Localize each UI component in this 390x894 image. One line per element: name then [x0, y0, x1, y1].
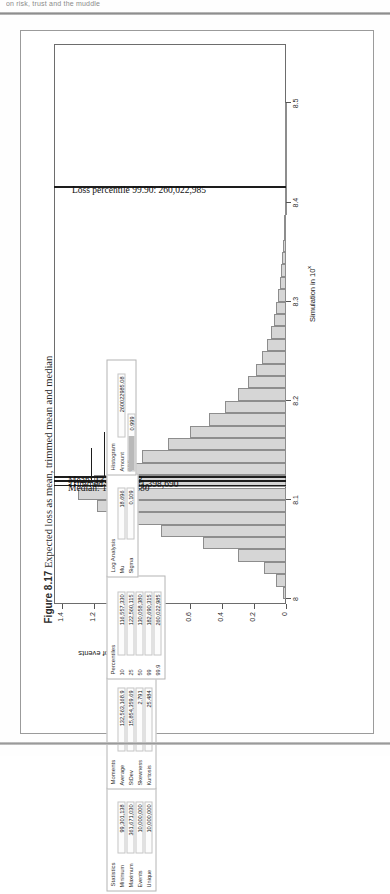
stat-label: 50 — [137, 656, 143, 676]
panel-title: Log Analysis — [110, 478, 116, 573]
stat-value: 10,000,000 — [136, 802, 144, 854]
stat-label: 99.9 — [155, 656, 161, 676]
stat-value: 0.109 — [127, 488, 135, 540]
panel-moments: Moments Average 132,563,168.9 StDev 15,8… — [107, 678, 157, 790]
running-head: on risk, trust and the muddle — [6, 0, 206, 9]
stat-row: Kurtosis 25.484 — [145, 682, 153, 786]
leader-line — [91, 448, 92, 482]
stat-label: Skewness — [137, 752, 143, 786]
histogram-bar — [285, 153, 287, 165]
x-axis-tick-label: 8.1 — [292, 488, 299, 512]
histogram-bar — [285, 141, 287, 153]
panel-statistics: Statistics Minimum 99,301,138 Maximum 36… — [107, 788, 157, 892]
stat-row: 99 182,690,315 — [145, 580, 153, 676]
y-axis-tick — [94, 604, 95, 609]
stat-label: Mu — [119, 540, 125, 574]
histogram-bar — [276, 574, 286, 586]
x-axis-tick-label: 8.2 — [292, 389, 299, 413]
y-axis-tick — [286, 604, 287, 609]
stat-row: 25 122,560,115 — [127, 580, 135, 676]
stat-label: Events — [137, 854, 143, 888]
stat-value: 130,058,380 — [136, 592, 144, 656]
panel-title: Moments — [110, 682, 116, 785]
stat-value: 182,690,315 — [145, 592, 153, 656]
x-axis-tick-label: 8.3 — [292, 290, 299, 314]
x-axis-tick-label: 8 — [292, 587, 299, 611]
stat-label: Unique — [146, 854, 152, 888]
histogram-bar — [280, 277, 286, 289]
stat-value: 260,022,985 — [154, 592, 162, 656]
stat-label: 25 — [128, 656, 134, 676]
histogram-bar — [267, 339, 286, 351]
y-axis-tick — [62, 604, 63, 609]
histogram-bar — [282, 252, 286, 264]
stat-row: Minimum 99,301,138 — [118, 792, 126, 888]
histogram-bar — [285, 103, 287, 115]
stat-label: StDev — [128, 752, 134, 786]
x-axis-tick — [286, 202, 291, 203]
histogram-bar — [264, 562, 286, 574]
panel-percentiles: Percentiles 10 116,557,330 25 122,560,11… — [107, 576, 166, 680]
histogram-bar — [285, 203, 287, 215]
histogram-bar — [248, 376, 286, 388]
stat-label: 10 — [119, 656, 125, 676]
stat-value: 116,557,330 — [118, 592, 126, 656]
stat-label: Average — [119, 752, 125, 786]
x-axis-tick-label: 8.5 — [292, 91, 299, 115]
stat-label: 99 — [146, 656, 152, 676]
stat-row: Average 132,563,168.9 — [118, 682, 126, 786]
stat-value: 0.999 — [128, 414, 136, 472]
y-axis-tick-label: 1.4 — [57, 612, 64, 638]
stat-row: Mu 18.696 — [118, 478, 126, 574]
histogram-bar — [278, 289, 286, 301]
histogram-bar — [285, 165, 287, 177]
stat-row: 99.9 260,022,985 — [154, 580, 162, 676]
stat-row: Skewness 2.791 — [136, 682, 144, 786]
panel-title: Percentiles — [110, 580, 116, 675]
figure-number: Figure 8.17 — [43, 571, 54, 624]
stat-row: Maximum 361,671,030 — [127, 792, 135, 888]
footer-rule — [0, 742, 390, 745]
stat-row: StDev 15,854,359.69 — [127, 682, 135, 786]
y-axis-tick — [254, 604, 255, 609]
histogram-bar — [284, 215, 286, 227]
y-axis-tick-label: 1.2 — [89, 612, 96, 638]
annotation-loss-percentile: Loss percentile 99.90: 260,022,985 — [72, 185, 206, 195]
leader-line — [104, 432, 105, 478]
panel-title: Statistics — [110, 792, 116, 887]
stat-row: 10 116,557,330 — [118, 580, 126, 676]
stat-row: Unique 10,000,000 — [145, 792, 153, 888]
stat-label: Amount — [119, 438, 125, 472]
histogram-bar — [285, 128, 287, 140]
histogram-bar — [285, 116, 287, 128]
histogram-bar — [271, 326, 286, 338]
x-axis-tick-label: 8.4 — [292, 191, 299, 215]
stat-value: 18.696 — [118, 488, 126, 540]
panel-histogram: Histogram Amount 260022985.08 CDF 0.999 — [107, 360, 137, 476]
stat-value: 99,301,138 — [118, 802, 126, 854]
statistics-panels: Statistics Minimum 99,301,138 Maximum 36… — [107, 334, 232, 894]
histogram-bar — [283, 240, 286, 252]
stat-label: Minimum — [119, 854, 125, 888]
stat-row: CDF 0.999 — [127, 364, 133, 472]
stat-row: 50 130,058,380 — [136, 580, 144, 676]
stat-row: Events 10,000,000 — [136, 792, 144, 888]
stat-value: 260022985.08 — [118, 374, 126, 438]
figure-frame: Thousands of events Simulation in 10x 00… — [20, 30, 374, 734]
histogram-bar — [276, 302, 286, 314]
x-axis-label: Simulation in 10x — [306, 266, 317, 322]
histogram-bar — [274, 314, 286, 326]
x-axis-tick — [286, 499, 291, 500]
histogram-bar — [262, 351, 286, 363]
figure-caption: Figure 8.17 Expected loss as mean, trimm… — [43, 24, 54, 624]
histogram-bar — [284, 227, 286, 239]
x-axis-tick — [286, 301, 291, 302]
histogram-bar — [256, 364, 286, 376]
y-axis-tick-label: 0.2 — [249, 612, 256, 638]
stat-row: Sigma 0.109 — [127, 478, 135, 574]
histogram-bar — [281, 265, 286, 277]
panel-title: Histogram — [110, 364, 116, 471]
figure-caption-text: Expected loss as mean, trimmed mean and … — [43, 356, 54, 568]
stat-value: 361,671,030 — [127, 802, 135, 854]
